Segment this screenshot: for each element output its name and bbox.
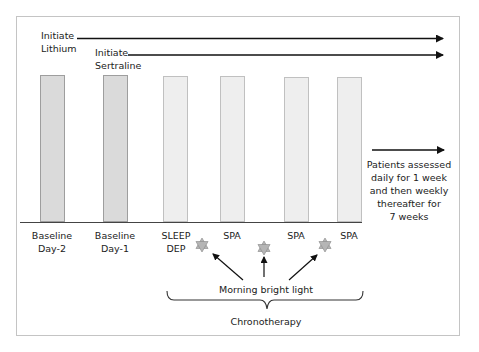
star-icon: [319, 238, 331, 252]
followup-note-line: thereafter for: [364, 197, 454, 210]
timepoint-label-spa-1: SPA: [223, 229, 241, 242]
timepoint-label-spa-2: SPA: [287, 229, 305, 242]
timepoint-label-baseline-day-2: Baseline Day-2: [32, 229, 72, 255]
light-arrow-1: [213, 254, 243, 280]
timepoint-label-line1: Baseline: [95, 229, 135, 242]
timepoint-label-line1: SPA: [287, 229, 305, 242]
timepoint-label-line2: Day-2: [32, 242, 72, 255]
star-icon: [258, 241, 270, 255]
followup-note-line: and then weekly: [364, 184, 454, 197]
followup-note-line: Patients assessed: [364, 158, 454, 171]
timepoint-label-sleep-dep: SLEEP DEP: [161, 229, 190, 255]
timepoint-label-spa-3: SPA: [340, 229, 358, 242]
morning-bright-light-label: Morning bright light: [219, 283, 313, 296]
timepoint-label-line1: SPA: [223, 229, 241, 242]
timepoint-label-line2: Day-1: [95, 242, 135, 255]
timepoint-label-baseline-day-1: Baseline Day-1: [95, 229, 135, 255]
timepoint-label-line1: SPA: [340, 229, 358, 242]
chronotherapy-label: Chronotherapy: [231, 315, 302, 328]
star-icon: [196, 238, 208, 252]
followup-note: Patients assessed daily for 1 week and t…: [364, 158, 454, 223]
timepoint-label-line2: DEP: [161, 242, 190, 255]
timepoint-label-line1: SLEEP: [161, 229, 190, 242]
timepoint-label-line1: Baseline: [32, 229, 72, 242]
followup-note-line: 7 weeks: [364, 210, 454, 223]
light-arrow-3: [289, 255, 317, 280]
followup-note-line: daily for 1 week: [364, 171, 454, 184]
